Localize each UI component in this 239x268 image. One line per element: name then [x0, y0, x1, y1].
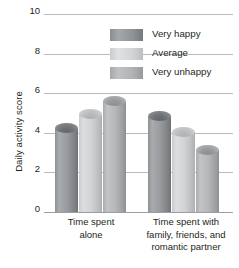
legend-label: Very unhappy	[152, 66, 211, 77]
bar-body	[103, 101, 126, 212]
bar-body	[55, 128, 78, 212]
medium-gray-swatch-icon	[110, 67, 143, 79]
x-label-group1: Time spent alone	[44, 216, 138, 241]
bar-group2-very-unhappy	[196, 145, 219, 212]
dark-gray-swatch-icon	[110, 29, 143, 41]
y-tick-8: 8	[10, 46, 40, 55]
y-tick-10: 10	[10, 6, 40, 15]
bar-group1-very-unhappy	[103, 96, 126, 212]
x-axis-labels: Time spent alone Time spent with family,…	[44, 216, 233, 266]
bar-cap	[79, 109, 102, 119]
legend-item-average: Average	[110, 45, 235, 64]
bar-group1-average	[79, 109, 102, 212]
legend-label: Average	[152, 47, 188, 58]
bar-cap	[196, 145, 219, 155]
x-label-group2-line1: Time spent with	[139, 216, 233, 229]
gridline-10	[44, 14, 233, 15]
x-label-group2-line2: family, friends, and	[139, 229, 233, 242]
gridline-6	[44, 93, 233, 94]
bar-body	[79, 114, 102, 212]
legend-item-very-unhappy: Very unhappy	[110, 64, 235, 83]
bar-chart: Daily activity score 10 8 6 4 2 0	[0, 0, 239, 268]
bar-group2-average	[172, 127, 195, 212]
x-label-group1-line2: alone	[44, 229, 138, 242]
legend-label: Very happy	[152, 28, 200, 39]
bar-cap	[55, 123, 78, 133]
chart-legend: Very happy Average Very unhappy	[110, 26, 235, 83]
legend-item-very-happy: Very happy	[110, 26, 235, 45]
y-tick-4: 4	[10, 125, 40, 134]
bar-body	[196, 150, 219, 212]
x-label-group2-line3: romantic partner	[139, 241, 233, 254]
light-gray-swatch-icon	[110, 48, 143, 60]
bar-group2-very-happy	[148, 111, 171, 212]
bar-body	[148, 116, 171, 212]
x-label-group2: Time spent with family, friends, and rom…	[139, 216, 233, 254]
axis-baseline	[44, 212, 233, 213]
bar-body	[172, 132, 195, 212]
bar-cap	[148, 111, 171, 121]
bar-group1-very-happy	[55, 123, 78, 212]
y-tick-0: 0	[10, 204, 40, 213]
bar-cap	[172, 127, 195, 137]
x-label-group1-line1: Time spent	[44, 216, 138, 229]
y-tick-6: 6	[10, 85, 40, 94]
y-tick-2: 2	[10, 164, 40, 173]
